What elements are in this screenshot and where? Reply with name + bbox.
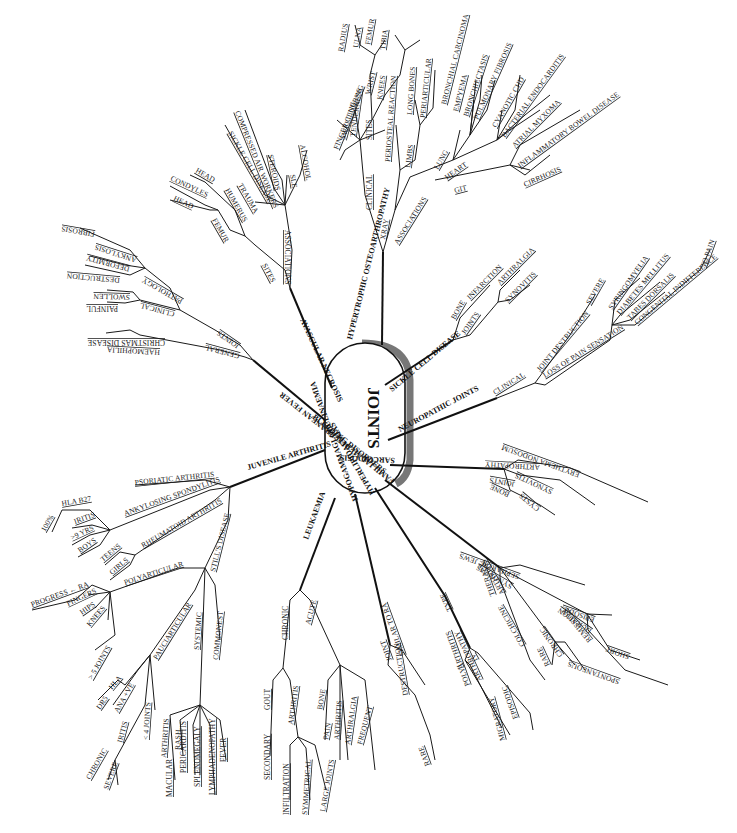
node-label: LARGE JOINTS <box>318 759 336 813</box>
node-label: SHORT <box>604 645 631 662</box>
node-label: PERIARTICULAR <box>418 58 433 119</box>
node-label: CLINICAL <box>365 174 374 210</box>
connector-line <box>300 590 340 665</box>
branch-title: LEUKAEMIA <box>301 490 327 540</box>
branch-avascular: AVASCULAR NECROSISSITESASSOCIATIONSFEMUR… <box>169 109 345 404</box>
node-label: SYMMETRICAL <box>300 759 313 815</box>
connector-line <box>95 592 115 650</box>
node-label: GIT <box>453 183 468 195</box>
node-label: CHRISTMAS DISEASE <box>87 338 165 347</box>
node-label: BONE <box>449 298 467 321</box>
node-label: SWOLLEN <box>93 292 130 302</box>
connector-line <box>405 40 420 50</box>
node-label: PAUCIARTICULAR <box>151 601 193 661</box>
connector-line <box>340 140 360 160</box>
connector-line <box>290 737 298 800</box>
connector-line <box>530 713 533 730</box>
node-label: ARTHRITIS <box>159 718 171 758</box>
node-label: SITES <box>365 119 374 140</box>
node-label: FEMUR <box>210 217 231 244</box>
node-label: IRITIS <box>73 510 97 526</box>
node-label: TIBIA <box>378 28 390 50</box>
node-label: PAINFUL <box>86 304 118 313</box>
node-label: MIGRATORY <box>486 696 506 742</box>
node-label: COMMONEST <box>211 610 225 660</box>
branch-leuk: LEUKAEMIACHRONICACUTEGOUTSECONDARYARTHRI… <box>263 490 375 815</box>
node-label: INFILTRATION <box>282 763 291 815</box>
node-label: < 4 JOINTS <box>141 702 153 740</box>
connector-line <box>430 735 435 760</box>
node-label: > 5 JOINTS <box>86 644 113 681</box>
node-label: ARTHRITIS <box>286 685 300 725</box>
connector-line <box>395 35 405 50</box>
node-label: FIBROSIS <box>61 224 96 239</box>
branch-title: JUVENILE ARTHRITIS <box>246 439 332 472</box>
node-label: TENDERNESS <box>348 88 364 138</box>
node-label: ARTHRITIS <box>332 700 344 740</box>
joints-mind-map: JOINTS HYPERTROPHIC OSTEOARTHROPATHYCLIN… <box>0 0 737 833</box>
node-label: JOINT <box>378 639 394 662</box>
node-label: SYNOVITIS <box>513 471 553 496</box>
node-label: CYSTS <box>517 491 541 513</box>
connector-line <box>540 505 555 515</box>
node-label: ASSOCIATIONS <box>283 230 292 285</box>
node-label: SPLENOMEGALY <box>193 726 202 787</box>
center-title: JOINTS <box>364 387 383 448</box>
node-label: DR5 <box>94 694 110 711</box>
branch-main-line <box>385 480 500 568</box>
node-label: ERYTHEMA NODOSUM <box>500 443 581 480</box>
node-label: FEVER <box>219 738 228 762</box>
connector-line <box>106 330 140 335</box>
node-label: SEVERE <box>584 276 606 306</box>
node-label: GOUT <box>263 688 272 710</box>
node-label: ACUTE <box>303 598 318 625</box>
node-label: JOINTS <box>459 310 481 336</box>
node-label: FEMUR <box>363 18 376 46</box>
node-label: DESTRUCTION <box>66 271 120 285</box>
node-label: HLA B27 <box>61 494 92 508</box>
node-label: CLINICAL <box>138 301 175 319</box>
node-label: MACULAR <box>165 759 174 797</box>
center-node: JOINTS <box>325 343 410 493</box>
node-label: EPISODIC <box>500 685 520 721</box>
node-label: CIRRHOSIS <box>522 164 562 189</box>
branch-sickle: SICKLE CELL DISEASEBONEINFARCTIONJOINTSA… <box>385 245 538 394</box>
node-label: POLYARTICULAR <box>123 559 185 587</box>
node-label: BONE <box>315 688 328 710</box>
node-label: LONG BONES <box>405 66 417 115</box>
node-label: HEART <box>443 160 469 182</box>
node-label: TO PAIN <box>698 238 717 269</box>
node-label: ASSOCIATIONS <box>392 195 429 246</box>
node-label: SECONDARY <box>263 733 272 780</box>
node-label: HEAD <box>172 194 195 211</box>
node-label: CHRONIC <box>281 606 290 640</box>
branch-main-line <box>382 252 383 345</box>
node-label: STILL'S DISEASE <box>208 512 231 573</box>
branch-bleeding: BLEEDING DISORDERSGENERALHAEMOPHILIACHRI… <box>61 224 389 476</box>
node-label: ALCOHOL <box>298 144 313 182</box>
node-label: PERICARDITIS <box>179 721 188 773</box>
node-label: LUNG <box>432 148 451 171</box>
node-label: DESTRUCTION <box>392 642 410 696</box>
node-label: TYPE <box>437 592 453 613</box>
node-label: SLE <box>288 174 299 189</box>
node-label: ULNA <box>351 25 364 48</box>
node-label: LYMPHADENOPATHY <box>208 718 217 795</box>
node-label: SPONTANEOUS <box>566 659 620 686</box>
node-label: RADIUS <box>336 23 350 53</box>
node-label: HEAD <box>194 166 217 185</box>
node-label: RARE <box>416 745 432 768</box>
connector-line <box>108 592 110 620</box>
node-label: IRITIS <box>115 720 129 743</box>
branch-neuro: NEUROPATHIC JOINTSCLINICALJOINT DESTRUCT… <box>388 238 719 440</box>
connector-line <box>395 125 400 210</box>
node-label: SITES <box>260 262 278 284</box>
connector-line <box>150 655 155 710</box>
node-label: KNEES <box>375 75 387 101</box>
node-label: LIMBS <box>403 144 415 168</box>
node-label: CLINICAL <box>491 370 526 397</box>
